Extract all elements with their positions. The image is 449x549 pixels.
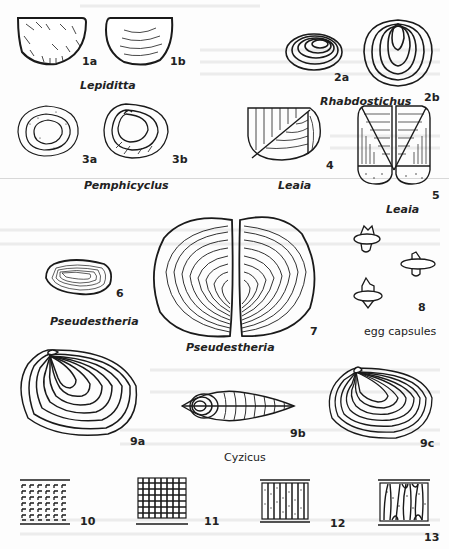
genus-caption: Pemphicyclus: [84, 180, 169, 191]
figure-number: 12: [330, 518, 345, 529]
figure-8-egg-capsule: [352, 224, 384, 254]
pemphicyclus-shell-icon: [16, 104, 82, 158]
genus-caption: Leaia: [386, 204, 419, 215]
figure-number: 9b: [290, 428, 306, 439]
figure-3b-pemphicyclus-shell: [102, 102, 172, 160]
figure-number: 8: [418, 302, 426, 313]
figure-number: 13: [424, 532, 439, 543]
figure-number: 7: [310, 326, 318, 337]
genus-caption: Cyzicus: [224, 452, 266, 463]
pseudestheria-shell-icon: [44, 258, 114, 298]
pseudestheria-carapace-icon: [150, 212, 320, 342]
figure-9a-cyzicus-shell: [18, 346, 142, 438]
figure-4-leaia-shell: [246, 106, 322, 162]
lepiditta-shell-icon: [104, 16, 174, 66]
ornament-pattern-icon: [378, 478, 430, 528]
genus-caption: Lepiditta: [80, 80, 136, 91]
figure-1a-lepiditta-shell: [16, 16, 86, 66]
rhabdostichus-shell-icon: [362, 18, 434, 88]
egg-capsule-icon: [398, 250, 438, 280]
figure-number: 3a: [82, 154, 97, 165]
figure-12-shell-ornament-detail: [260, 478, 310, 524]
figure-7-pseudestheria-carapace: [150, 212, 320, 342]
ornament-pattern-icon: [136, 476, 188, 526]
figure-number: 6: [116, 288, 124, 299]
figure-5-leaia-carapace: [356, 104, 432, 188]
pemphicyclus-shell-icon: [102, 102, 172, 160]
cyzicus-dorsal-icon: [180, 388, 296, 424]
figure-number: 5: [432, 190, 440, 201]
leaia-carapace-icon: [356, 104, 432, 188]
figure-number: 11: [204, 516, 219, 527]
genus-caption: Pseudestheria: [186, 342, 275, 353]
figure-number: 9c: [420, 438, 434, 449]
figure-number: 3b: [172, 154, 188, 165]
egg-capsule-icon: [352, 276, 386, 310]
figure-9c-cyzicus-shell: [326, 364, 436, 440]
figure-11-shell-ornament-detail: [136, 476, 188, 526]
cyzicus-shell-icon: [18, 346, 142, 438]
cyzicus-shell-icon: [326, 364, 436, 440]
genus-caption: Leaia: [278, 180, 311, 191]
figure-2a-rhabdostichus-shell: [284, 32, 344, 72]
figure-number: 2b: [424, 92, 440, 103]
lepiditta-shell-icon: [16, 16, 86, 66]
figure-number: 4: [326, 160, 334, 171]
figure-3a-pemphicyclus-shell: [16, 104, 82, 158]
ornament-pattern-icon: [260, 478, 310, 524]
figure-number: 10: [80, 516, 95, 527]
figure-number: 1b: [170, 56, 186, 67]
figure-9b-cyzicus-dorsal-view: [180, 388, 296, 424]
figure-1b-lepiditta-shell: [104, 16, 174, 66]
genus-caption: Pseudestheria: [50, 316, 139, 327]
figure-13-shell-ornament-detail: [378, 478, 430, 528]
genus-caption: egg capsules: [364, 326, 436, 337]
leaia-shell-icon: [246, 106, 322, 162]
rhabdostichus-shell-icon: [284, 32, 344, 72]
figure-6-pseudestheria-shell: [44, 258, 114, 298]
figure-number: 2a: [334, 72, 349, 83]
ornament-pattern-icon: [20, 478, 70, 526]
figure-10-shell-ornament-detail: [20, 478, 70, 526]
figure-number: 1a: [82, 56, 97, 67]
figure-number: 9a: [130, 436, 145, 447]
figure-8-egg-capsule: [352, 276, 386, 310]
figure-8-egg-capsule: [398, 250, 438, 280]
egg-capsule-icon: [352, 224, 384, 254]
figure-2b-rhabdostichus-shell: [362, 18, 434, 88]
